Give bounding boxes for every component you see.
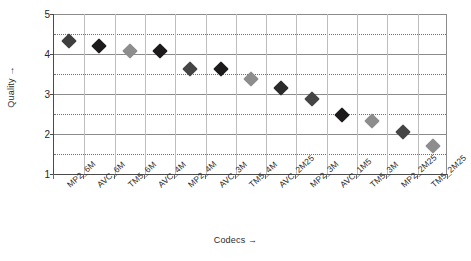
data-point-marker bbox=[61, 33, 77, 49]
y-tick-label: 4 bbox=[28, 49, 50, 60]
x-tick-mark bbox=[53, 174, 54, 179]
gridline-vertical bbox=[145, 14, 146, 174]
gridline-vertical bbox=[206, 14, 207, 174]
data-point-marker bbox=[395, 124, 411, 140]
data-point-marker bbox=[92, 39, 108, 55]
x-axis-title: Codecs → bbox=[0, 235, 471, 245]
gridline-vertical bbox=[296, 14, 297, 174]
gridline-vertical bbox=[175, 14, 176, 174]
gridline-vertical bbox=[357, 14, 358, 174]
y-tick-label: 2 bbox=[28, 129, 50, 140]
gridline-vertical bbox=[84, 14, 85, 174]
gridline-vertical bbox=[266, 14, 267, 174]
plot-area bbox=[53, 14, 447, 174]
gridline-vertical bbox=[327, 14, 328, 174]
data-point-marker bbox=[122, 43, 138, 59]
y-tick-label: 5 bbox=[28, 9, 50, 20]
y-tick-label: 1 bbox=[28, 169, 50, 180]
y-axis-tick-labels: 12345 bbox=[26, 14, 50, 174]
gridline-vertical bbox=[236, 14, 237, 174]
gridline-vertical bbox=[418, 14, 419, 174]
data-point-marker bbox=[152, 43, 168, 59]
y-axis-title: Quality → bbox=[6, 55, 16, 119]
gridline-vertical bbox=[115, 14, 116, 174]
data-point-marker bbox=[425, 138, 441, 154]
x-axis-tick-labels: MP2_6MAVC_6MTM5_6MAVC_4MMP2_4MAVC_3MTM5_… bbox=[0, 180, 471, 235]
data-point-marker bbox=[334, 107, 350, 123]
y-tick-label: 3 bbox=[28, 89, 50, 100]
quality-vs-codecs-scatter-chart: Quality → 12345 MP2_6MAVC_6MTM5_6MAVC_4M… bbox=[0, 0, 471, 261]
data-point-marker bbox=[364, 113, 380, 129]
gridline-vertical bbox=[387, 14, 388, 174]
